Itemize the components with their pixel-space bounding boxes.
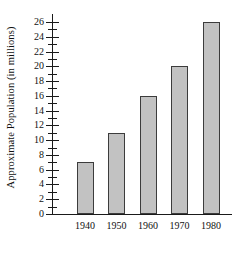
y-tick-major [46,140,59,141]
y-tick-major [46,199,59,200]
y-tick-minor [48,74,57,75]
y-tick-label: 16 [22,91,44,101]
bar [108,133,125,214]
y-tick-label: 20 [22,61,44,71]
x-tick-label: 1970 [164,220,196,232]
y-tick-major [46,52,59,53]
y-tick-minor [48,177,57,178]
y-tick-label: 4 [22,179,44,189]
y-tick-label: 8 [22,150,44,160]
bar [171,66,188,214]
x-tick-label: 1940 [69,220,101,232]
y-tick-label: 6 [22,165,44,175]
y-tick-label: 24 [22,32,44,42]
y-tick-label: 10 [22,135,44,145]
bar [140,96,157,214]
y-tick-major [46,37,59,38]
y-tick-major [46,22,59,23]
y-tick-minor [48,59,57,60]
y-tick-major [46,155,59,156]
y-tick-label: 22 [22,47,44,57]
y-tick-label: 26 [22,17,44,27]
y-tick-label: 2 [22,194,44,204]
y-tick-major [46,184,59,185]
y-tick-minor [48,133,57,134]
x-axis-line [52,214,232,215]
y-tick-minor [48,103,57,104]
y-tick-major [46,81,59,82]
y-tick-minor [48,162,57,163]
bar [77,162,94,214]
y-tick-label: 12 [22,120,44,130]
y-tick-label: 0 [22,209,44,219]
y-tick-minor [48,148,57,149]
y-axis-tick-labels: 02468101214161820222426 [22,8,44,253]
x-tick-label: 1960 [132,220,164,232]
y-tick-major [46,170,59,171]
x-tick-label: 1950 [101,220,133,232]
plot-area: 02468101214161820222426 1940195019601970… [22,8,233,253]
y-axis-title: Approximate Population (in millions) [0,0,22,215]
y-tick-label: 18 [22,76,44,86]
y-axis-title-label: Approximate Population (in millions) [6,27,17,189]
y-tick-minor [48,88,57,89]
y-tick-minor [48,118,57,119]
y-tick-minor [48,207,57,208]
y-tick-minor [48,44,57,45]
y-tick-major [46,96,59,97]
y-tick-minor [48,29,57,30]
y-tick-major [46,66,59,67]
y-tick-label: 14 [22,106,44,116]
y-tick-major [46,111,59,112]
y-tick-minor [48,192,57,193]
x-tick-label: 1980 [195,220,227,232]
bar [203,22,220,214]
y-tick-major [46,125,59,126]
y-tick-major [46,214,59,215]
bar-chart-figure: Approximate Population (in millions) 024… [0,0,233,253]
